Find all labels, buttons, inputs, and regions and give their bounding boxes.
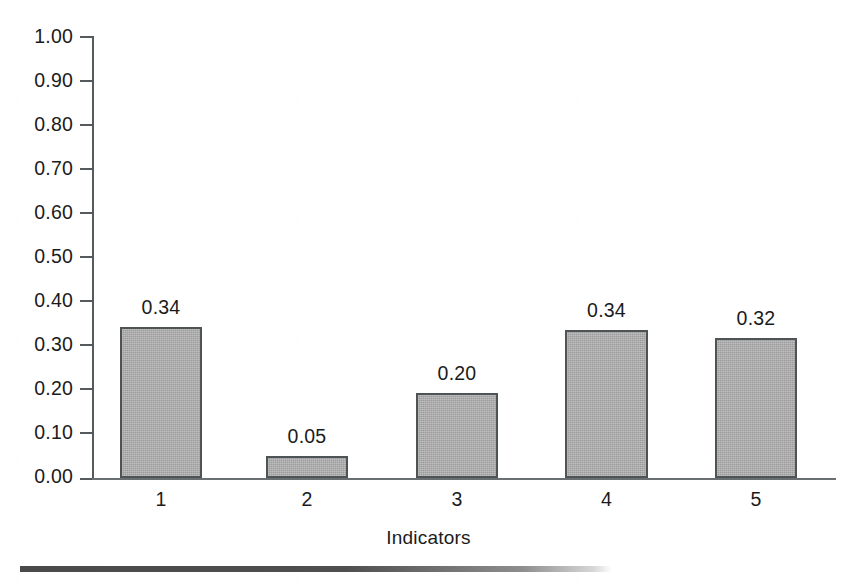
bar-value-label: 0.34 [565, 299, 648, 322]
bar-3 [416, 393, 498, 478]
y-axis-line [92, 36, 94, 479]
y-tick-label: 0.90 [0, 69, 73, 92]
y-tick-label: 0.30 [0, 333, 73, 356]
bar-5 [715, 338, 797, 478]
bar-value-label: 0.05 [266, 425, 348, 448]
x-tick-label-5: 5 [715, 488, 797, 511]
y-tick-10: 0.00 [0, 465, 73, 487]
x-tick-label-4: 4 [565, 488, 648, 511]
plot-area: 1.00 0.90 0.80 0.70 0.60 0.50 [0, 0, 857, 582]
y-tick-label: 0.80 [0, 113, 73, 136]
y-tick-label: 0.70 [0, 157, 73, 180]
x-axis-title: Indicators [0, 527, 857, 549]
x-tick-label-3: 3 [416, 488, 498, 511]
x-axis-line [92, 478, 836, 480]
y-tick-label: 0.40 [0, 289, 73, 312]
bar-value-label: 0.20 [416, 362, 498, 385]
bar-2 [266, 456, 348, 478]
y-tick-5: 0.50 [0, 245, 73, 267]
y-tick-4: 0.60 [0, 201, 73, 223]
x-tick-label-2: 2 [266, 488, 348, 511]
y-tick-6: 0.40 [0, 289, 73, 311]
y-tick-label: 0.60 [0, 201, 73, 224]
bottom-divider-rule [20, 566, 612, 572]
bar-1 [120, 327, 202, 478]
y-tick-2: 0.80 [0, 113, 73, 135]
y-tick-label: 0.10 [0, 421, 73, 444]
bar-4 [565, 330, 648, 478]
y-tick-7: 0.30 [0, 333, 73, 355]
y-tick-1: 0.90 [0, 69, 73, 91]
y-tick-label: 0.50 [0, 245, 73, 268]
y-tick-3: 0.70 [0, 157, 73, 179]
bar-value-label: 0.34 [120, 296, 202, 319]
x-tick-label-1: 1 [120, 488, 202, 511]
chart-page: 1.00 0.90 0.80 0.70 0.60 0.50 [0, 0, 857, 582]
y-tick-9: 0.10 [0, 421, 73, 443]
y-tick-8: 0.20 [0, 377, 73, 399]
bar-value-label: 0.32 [715, 307, 797, 330]
y-tick-label: 0.00 [0, 465, 73, 488]
y-tick-label: 0.20 [0, 377, 73, 400]
y-tick-label: 1.00 [0, 25, 73, 48]
y-tick-0: 1.00 [0, 25, 73, 47]
